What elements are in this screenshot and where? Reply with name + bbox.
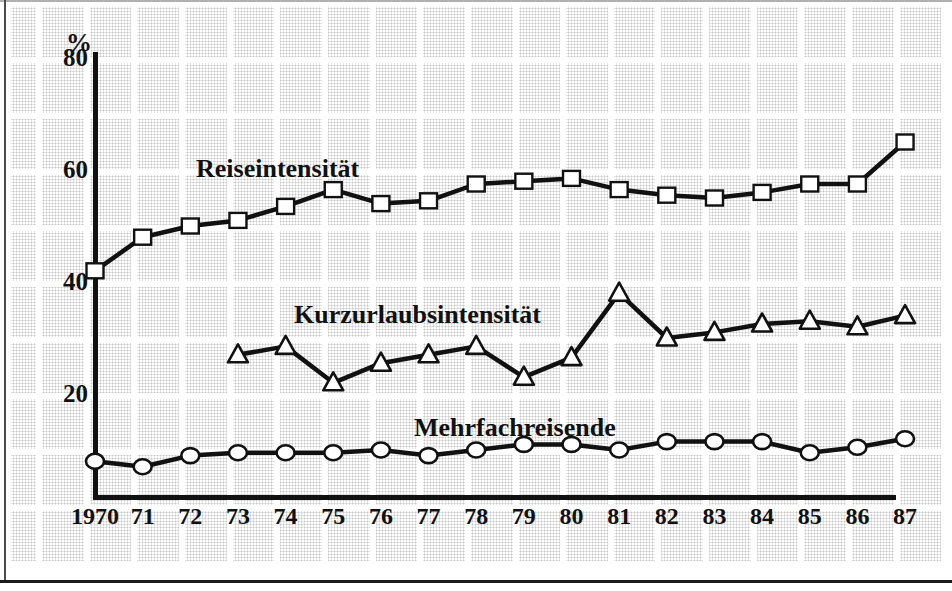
circle-marker: [277, 445, 295, 460]
circle-marker: [896, 431, 914, 446]
x-tick-label: 86: [845, 503, 869, 530]
x-tick-label: 71: [131, 503, 155, 530]
series-line-3: [95, 439, 905, 467]
circle-marker: [372, 443, 390, 458]
x-tick-label: 1970: [71, 503, 119, 530]
circle-marker: [324, 445, 342, 460]
series-label-mehrfachreisende: Mehrfachreisende: [414, 413, 616, 443]
x-tick-label: 80: [560, 503, 584, 530]
y-tick-label-20: 20: [46, 381, 88, 407]
square-marker: [563, 171, 580, 186]
square-marker: [182, 219, 199, 234]
square-marker: [706, 191, 723, 206]
square-marker: [897, 135, 914, 150]
y-tick-label-80: 80: [46, 45, 88, 71]
series-label-reiseintensitaet: Reiseintensität: [196, 154, 359, 184]
triangle-marker: [895, 305, 915, 323]
circle-marker: [134, 459, 152, 474]
triangle-marker: [609, 283, 629, 301]
square-marker: [229, 213, 246, 228]
circle-marker: [705, 434, 723, 449]
y-tick-label-60: 60: [46, 157, 88, 183]
square-marker: [611, 182, 628, 197]
circle-marker: [658, 434, 676, 449]
x-tick-label: 77: [417, 503, 441, 530]
circle-marker: [753, 434, 771, 449]
square-marker: [754, 185, 771, 200]
circle-marker: [86, 454, 104, 469]
circle-marker: [467, 443, 485, 458]
circle-marker: [610, 443, 628, 458]
square-marker: [372, 196, 389, 211]
x-tick-label: 87: [893, 503, 917, 530]
x-tick-label: 72: [178, 503, 202, 530]
square-marker: [420, 193, 437, 208]
x-tick-label: 81: [607, 503, 631, 530]
x-tick-label: 74: [274, 503, 298, 530]
square-marker: [515, 174, 532, 189]
circle-marker: [420, 448, 438, 463]
x-tick-label: 84: [750, 503, 774, 530]
x-tick-label: 82: [655, 503, 679, 530]
triangle-marker: [276, 336, 296, 354]
square-marker: [468, 177, 485, 192]
circle-marker: [181, 448, 199, 463]
circle-marker: [229, 445, 247, 460]
x-tick-label: 78: [464, 503, 488, 530]
circle-marker: [801, 445, 819, 460]
x-tick-label: 76: [369, 503, 393, 530]
series-label-kurzurlaubsintensitaet: Kurzurlaubsintensität: [294, 300, 541, 330]
square-marker: [658, 188, 675, 203]
square-marker: [134, 230, 151, 245]
square-marker: [325, 182, 342, 197]
x-tick-label: 73: [226, 503, 250, 530]
triangle-marker: [466, 336, 486, 354]
y-tick-label-40: 40: [46, 269, 88, 295]
x-tick-label: 79: [512, 503, 536, 530]
square-marker: [277, 199, 294, 214]
x-tick-label: 85: [798, 503, 822, 530]
square-marker: [849, 177, 866, 192]
square-marker: [87, 263, 104, 278]
x-tick-label: 75: [321, 503, 345, 530]
x-tick-label: 83: [702, 503, 726, 530]
square-marker: [801, 177, 818, 192]
circle-marker: [848, 440, 866, 455]
